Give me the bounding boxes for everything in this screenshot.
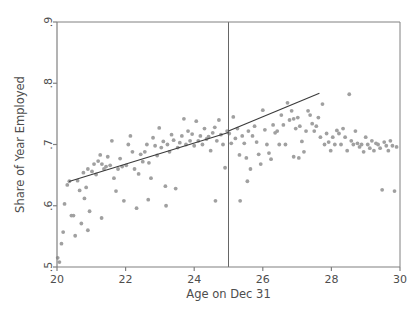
scatter-point xyxy=(112,176,116,180)
scatter-point xyxy=(174,187,178,191)
scatter-point xyxy=(233,136,237,140)
scatter-point xyxy=(201,143,205,147)
x-tick-label: 20 xyxy=(50,273,64,286)
scatter-point xyxy=(135,206,139,210)
chart-figure: .5.6.7.8.9202224262830Age on Dec 31Share… xyxy=(0,0,419,309)
scatter-point xyxy=(316,116,320,120)
scatter-point xyxy=(372,149,376,153)
scatter-point xyxy=(108,163,112,167)
scatter-point xyxy=(321,102,325,106)
scatter-point xyxy=(73,234,77,238)
y-tick-label: .8 xyxy=(42,78,55,89)
scatter-point xyxy=(259,162,263,166)
scatter-point xyxy=(178,141,182,145)
scatter-point xyxy=(323,143,327,147)
scatter-point xyxy=(384,144,388,148)
scatter-point xyxy=(190,132,194,136)
scatter-point xyxy=(100,216,104,220)
scatter-point xyxy=(393,189,397,193)
x-axis-title: Age on Dec 31 xyxy=(186,287,270,301)
scatter-point xyxy=(186,129,190,133)
scatter-point xyxy=(269,157,273,161)
scatter-point xyxy=(192,144,196,148)
scatter-point xyxy=(131,150,135,154)
scatter-point xyxy=(63,202,67,206)
scatter-point xyxy=(86,228,90,232)
scatter-point xyxy=(129,134,133,138)
scatter-point xyxy=(292,155,296,159)
scatter-point xyxy=(188,139,192,143)
scatter-point xyxy=(143,150,147,154)
scatter-point xyxy=(279,113,283,117)
scatter-point xyxy=(161,140,165,144)
scatter-point xyxy=(84,185,88,189)
scatter-point xyxy=(263,128,267,132)
scatter-point xyxy=(116,167,120,171)
scatter-point xyxy=(96,159,100,163)
scatter-point xyxy=(366,143,370,147)
scatter-point xyxy=(242,141,246,145)
scatter-point xyxy=(312,129,316,133)
scatter-point xyxy=(194,119,198,123)
scatter-point xyxy=(284,143,288,147)
scatter-point xyxy=(214,199,218,203)
scatter-point xyxy=(90,170,94,174)
scatter-point xyxy=(331,135,335,139)
scatter-point xyxy=(360,143,364,147)
scatter-point xyxy=(56,256,60,260)
scatter-point xyxy=(100,162,104,166)
scatter-point xyxy=(88,209,92,213)
scatter-point xyxy=(347,92,351,96)
scatter-point xyxy=(215,139,219,143)
y-axis-title: Share of Year Employed xyxy=(13,76,27,213)
scatter-point xyxy=(271,123,275,127)
scatter-point xyxy=(370,139,374,143)
scatter-point xyxy=(267,151,271,155)
scatter-point xyxy=(213,125,217,129)
scatter-point xyxy=(345,149,349,153)
scatter-point xyxy=(72,214,76,218)
scatter-point xyxy=(78,189,82,193)
scatter-point xyxy=(389,139,393,143)
scatter-point xyxy=(164,204,168,208)
scatter-point xyxy=(146,198,150,202)
scatter-point xyxy=(294,127,298,131)
scatter-point xyxy=(122,199,126,203)
scatter-point xyxy=(86,167,90,171)
scatter-point xyxy=(172,138,176,142)
scatter-point xyxy=(126,143,130,147)
scatter-point xyxy=(339,143,343,147)
scatter-point xyxy=(245,179,249,183)
scatter-point xyxy=(149,176,153,180)
scatter-point xyxy=(141,160,145,164)
scatter-point xyxy=(92,162,96,166)
scatter-point xyxy=(364,135,368,139)
scatter-point xyxy=(147,161,151,165)
scatter-point xyxy=(163,184,167,188)
scatter-point xyxy=(137,172,141,176)
scatter-point xyxy=(231,115,235,119)
scatter-point xyxy=(61,230,65,234)
scatter-point xyxy=(380,188,384,192)
y-tick-label: .5 xyxy=(42,262,55,273)
scatter-point xyxy=(251,134,255,138)
scatter-point xyxy=(82,171,86,175)
scatter-point xyxy=(166,143,170,147)
scatter-point xyxy=(170,133,174,137)
scatter-point xyxy=(337,132,341,136)
scatter-point xyxy=(382,140,386,144)
scatter-point xyxy=(300,140,304,144)
scatter-point xyxy=(229,141,233,145)
scatter-point xyxy=(395,145,399,149)
scatter-point xyxy=(253,124,257,128)
scatter-point xyxy=(60,242,64,246)
scatter-point xyxy=(265,143,269,147)
scatter-point xyxy=(182,117,186,121)
scatter-point xyxy=(65,183,69,187)
scatter-point xyxy=(133,167,137,171)
scatter-point xyxy=(110,139,114,143)
scatter-point xyxy=(98,153,102,157)
scatter-point xyxy=(302,150,306,154)
scatter-point xyxy=(223,166,227,170)
scatter-point xyxy=(362,150,366,154)
